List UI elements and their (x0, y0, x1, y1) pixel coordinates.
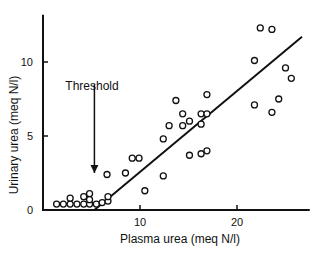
data-point (251, 58, 257, 64)
data-point (204, 92, 210, 98)
data-point (198, 111, 204, 117)
data-point (204, 111, 210, 117)
threshold-annotation: Threshold (65, 79, 118, 93)
data-point (269, 109, 275, 115)
data-point (186, 152, 192, 158)
data-point (54, 201, 60, 207)
data-point (276, 96, 282, 102)
data-point (87, 197, 93, 203)
y-tick-label: 0 (27, 204, 33, 216)
data-point (136, 155, 142, 161)
labels: Plasma urea (meq N/l) Urinary urea (meq … (7, 76, 240, 246)
y-axis-label: Urinary urea (meq N/l) (7, 76, 21, 195)
data-point (93, 201, 99, 207)
data-point (81, 201, 87, 207)
data-point (74, 201, 80, 207)
data-point (166, 123, 172, 129)
arrowhead-icon (90, 165, 98, 173)
x-axis-label: Plasma urea (meq N/l) (120, 232, 240, 246)
data-point (99, 200, 105, 206)
data-point (251, 102, 257, 108)
data-point (269, 26, 275, 32)
x-tick-label: 20 (231, 216, 243, 228)
y-tick-label: 10 (21, 56, 33, 68)
data-point (142, 188, 148, 194)
data-point (180, 123, 186, 129)
data-point (87, 191, 93, 197)
data-point (198, 151, 204, 157)
data-point (122, 170, 128, 176)
x-tick-label: 10 (134, 216, 146, 228)
data-point (160, 173, 166, 179)
axes: 10200510 (21, 15, 310, 228)
scatter-chart: 10200510 Plasma urea (meq N/l) Urinary u… (0, 0, 318, 257)
data-point (129, 155, 135, 161)
data-point (180, 111, 186, 117)
data-point (257, 25, 263, 31)
data-points (54, 25, 295, 207)
data-point (104, 171, 110, 177)
data-point (283, 65, 289, 71)
data-point (198, 121, 204, 127)
y-tick-label: 5 (27, 130, 33, 142)
data-point (105, 194, 111, 200)
data-point (186, 118, 192, 124)
data-point (160, 136, 166, 142)
data-point (67, 195, 73, 201)
data-point (81, 194, 87, 200)
data-point (173, 97, 179, 103)
data-point (60, 201, 66, 207)
data-point (288, 75, 294, 81)
data-point (204, 148, 210, 154)
data-point (67, 201, 73, 207)
